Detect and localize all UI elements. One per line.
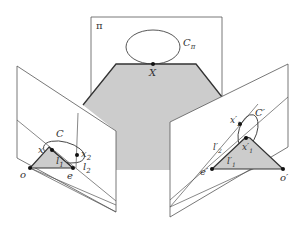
label-e-prime: e′ <box>200 166 209 177</box>
label-o: o <box>20 169 26 180</box>
label-o-prime: o′ <box>280 172 289 183</box>
label-e: e <box>67 170 73 181</box>
world-conic <box>126 30 180 64</box>
epipolar-diagram: π Cπ X C x x2 l1 l2 o e C′ x′2 x′1 l′2 l… <box>0 0 304 228</box>
label-pi: π <box>96 20 103 31</box>
label-x: x <box>38 144 44 155</box>
label-C-pi: Cπ <box>183 37 196 51</box>
label-X: X <box>148 67 157 78</box>
label-C-prime: C′ <box>255 107 266 118</box>
world-point-X <box>151 62 155 66</box>
label-C: C <box>56 128 64 139</box>
